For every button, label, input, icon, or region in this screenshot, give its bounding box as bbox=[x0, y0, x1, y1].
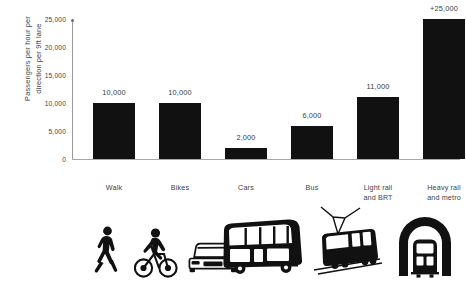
x-tick-walk: Walk bbox=[106, 183, 122, 193]
bar-walk bbox=[93, 103, 135, 159]
pictogram-strip bbox=[0, 196, 466, 288]
bar-light-rail bbox=[357, 97, 399, 159]
y-axis-title: Passengers per hour per direction per 9f… bbox=[23, 0, 44, 139]
bar-cars bbox=[225, 148, 267, 159]
tram-icon bbox=[312, 204, 384, 278]
bar-group-bikes: 10,000 bbox=[146, 19, 214, 159]
bar-group-light-rail: 11,000 bbox=[344, 19, 412, 159]
bar-bikes bbox=[159, 103, 201, 159]
bar-value-light-rail: 11,000 bbox=[367, 82, 390, 91]
y-tick-5000: 5,000 bbox=[49, 128, 67, 135]
bus-icon bbox=[218, 216, 304, 276]
bar-heavy-rail bbox=[423, 19, 465, 159]
x-tick-cars-line-1: Cars bbox=[238, 183, 254, 193]
x-tick-light-rail-line-1: Light rail bbox=[363, 183, 392, 193]
x-tick-heavy-rail-line-1: Heavy rail bbox=[427, 183, 461, 193]
bar-value-heavy-rail: +25,000 bbox=[430, 4, 458, 13]
bar-group-walk: 10,000 bbox=[80, 19, 148, 159]
cyclist-icon bbox=[134, 224, 178, 280]
x-tick-cars: Cars bbox=[238, 183, 254, 193]
bar-value-cars: 2,000 bbox=[236, 133, 255, 142]
x-tick-bikes: Bikes bbox=[171, 183, 189, 193]
y-axis-title-line-1: Passengers per hour per bbox=[23, 0, 34, 139]
metro-tunnel-icon bbox=[396, 214, 454, 278]
plot-area: 0 5,000 10,000 15,000 20,000 25,000 10,0… bbox=[72, 19, 460, 160]
y-axis-title-line-2: direction per 9ft lane bbox=[33, 0, 44, 139]
x-axis-line bbox=[72, 159, 460, 160]
bar-series: 10,000 10,000 2,000 6,000 11,000 +25,000 bbox=[72, 19, 460, 159]
x-tick-bus: Bus bbox=[306, 183, 319, 193]
y-tick-0: 0 bbox=[62, 156, 66, 163]
pedestrian-icon bbox=[92, 226, 122, 278]
x-tick-bikes-line-1: Bikes bbox=[171, 183, 189, 193]
x-tick-bus-line-1: Bus bbox=[306, 183, 319, 193]
bar-bus bbox=[291, 126, 333, 159]
y-tick-10000: 10,000 bbox=[45, 100, 66, 107]
bar-group-bus: 6,000 bbox=[278, 19, 346, 159]
capacity-bar-chart: Passengers per hour per direction per 9f… bbox=[0, 0, 466, 288]
bar-value-bikes: 10,000 bbox=[168, 88, 192, 97]
x-tick-walk-line-1: Walk bbox=[106, 183, 122, 193]
y-tick-20000: 20,000 bbox=[45, 44, 66, 51]
y-tick-25000: 25,000 bbox=[45, 16, 66, 23]
y-tick-15000: 15,000 bbox=[45, 72, 66, 79]
bar-value-bus: 6,000 bbox=[302, 111, 321, 120]
bar-group-heavy-rail: +25,000 bbox=[410, 19, 466, 159]
bar-value-walk: 10,000 bbox=[102, 88, 126, 97]
bar-group-cars: 2,000 bbox=[212, 19, 280, 159]
